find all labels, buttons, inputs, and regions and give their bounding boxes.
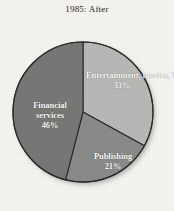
pie-label-entertainment-line1: Entertainment, [86, 71, 141, 80]
pie-label-publishing-line1: Publishing [94, 152, 132, 161]
pie-label-entertainment: Entertainment, movies, TV 33% [86, 71, 158, 91]
pie-label-financial-services: Financial services 46% [17, 101, 83, 132]
pie-label-entertainment-value: 33% [86, 81, 158, 91]
chart-title: 1985: After [0, 4, 174, 14]
pie-label-financial-services-value: 46% [17, 121, 83, 131]
pie-chart-figure: 1985: After Entertainment, movies, TV 33… [0, 0, 174, 211]
pie-label-publishing-value: 21% [78, 162, 148, 172]
pie-label-entertainment-line2: movies, TV [143, 71, 174, 80]
pie-label-financial-services-line1: Financial [33, 101, 67, 110]
pie-label-financial-services-line2: services [36, 111, 64, 120]
pie-label-publishing: Publishing 21% [78, 152, 148, 172]
